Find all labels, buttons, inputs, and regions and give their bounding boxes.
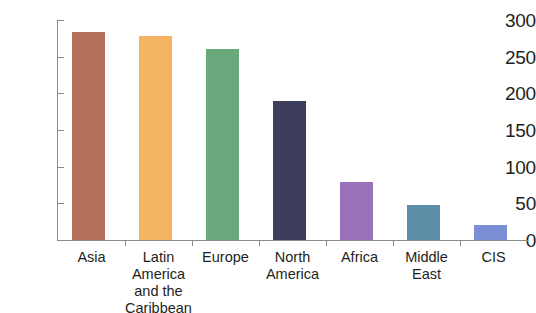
x-axis-category-label: CIS: [460, 249, 527, 266]
x-axis-tick: [326, 241, 327, 246]
x-axis-tick: [192, 241, 193, 246]
bar-middle-east: [407, 205, 440, 240]
bar-latin-america-and-the-caribbean: [139, 36, 172, 240]
x-axis-category-label: North America: [259, 249, 326, 283]
x-axis-line: [57, 240, 528, 241]
x-axis-tick: [460, 241, 461, 246]
bar-north-america: [273, 101, 306, 240]
x-axis-category-label: Africa: [326, 249, 393, 266]
bar-africa: [340, 182, 373, 240]
x-axis-tick: [259, 241, 260, 246]
x-axis-category-label: Latin America and the Caribbean: [125, 249, 192, 313]
plot-area: [58, 20, 528, 240]
bar-cis: [474, 225, 507, 240]
x-axis-tick: [393, 241, 394, 246]
x-axis-category-label: Europe: [192, 249, 259, 266]
x-axis-category-label: Asia: [58, 249, 125, 266]
x-axis-tick: [125, 241, 126, 246]
bar-europe: [206, 49, 239, 240]
bar-chart: 300 250 200 150 100 50 0 Asia Latin Amer…: [0, 0, 536, 313]
x-axis-category-label: Middle East: [391, 249, 462, 283]
bar-asia: [72, 32, 105, 240]
